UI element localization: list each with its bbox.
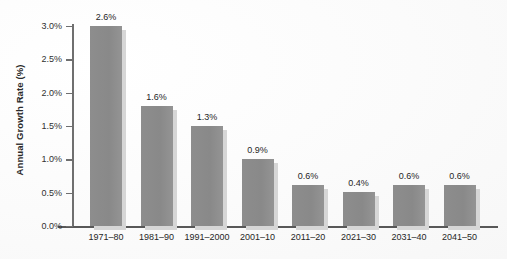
y-axis-tick-label: 2.5% — [18, 54, 62, 64]
bar-group[interactable]: 0.4% — [343, 192, 375, 226]
bar-value-label: 0.6% — [298, 171, 319, 181]
bar-rect[interactable] — [343, 192, 375, 226]
x-axis-tick-label: 1971–80 — [88, 232, 123, 242]
bar-rect[interactable] — [292, 185, 324, 226]
x-axis-tick-label: 1981–90 — [139, 232, 174, 242]
bar-value-label: 1.3% — [197, 112, 218, 122]
bar-rect[interactable] — [242, 159, 274, 226]
bar-group[interactable]: 1.3% — [191, 126, 223, 226]
bar-group[interactable]: 0.6% — [292, 185, 324, 226]
bar-group[interactable]: 0.6% — [444, 185, 476, 226]
y-axis-tick-label: 2.0% — [18, 88, 62, 98]
bar-rect[interactable] — [393, 185, 425, 226]
bar-rect[interactable] — [444, 185, 476, 226]
y-axis-tick-label: 0.0% — [18, 221, 62, 231]
bar-rect[interactable] — [191, 126, 223, 226]
y-axis-tick-label: 3.0% — [18, 21, 62, 31]
bar-value-label: 0.4% — [348, 178, 369, 188]
bar-group[interactable]: 0.9% — [242, 159, 274, 226]
bar-chart-figure: Annual Growth Rate (%) 0.0%0.5%1.0%1.5%2… — [0, 0, 507, 259]
y-axis-title: Annual Growth Rate (%) — [14, 50, 25, 190]
y-axis-tick-label: 1.0% — [18, 154, 62, 164]
bar-value-label: 1.6% — [146, 92, 167, 102]
bar-value-label: 2.6% — [96, 12, 117, 22]
bar-rect[interactable] — [90, 26, 122, 226]
x-axis-tick-label: 2021–30 — [341, 232, 376, 242]
bar-value-label: 0.6% — [399, 171, 420, 181]
bar-rect[interactable] — [141, 106, 173, 226]
x-axis-tick-label: 2041–50 — [442, 232, 477, 242]
bar-group[interactable]: 0.6% — [393, 185, 425, 226]
x-axis-tick-label: 2011–20 — [291, 232, 325, 242]
x-axis-tick-label: 1991–2000 — [184, 232, 229, 242]
bar-group[interactable]: 1.6% — [141, 106, 173, 226]
bar-value-label: 0.9% — [247, 145, 268, 155]
x-axis-tick-label: 2001–10 — [240, 232, 275, 242]
y-axis-tick-label: 1.5% — [18, 121, 62, 131]
plot-area: 2.6%1.6%1.3%0.9%0.6%0.4%0.6%0.6% — [72, 26, 490, 226]
bar-group[interactable]: 2.6% — [90, 26, 122, 226]
y-axis-tick-label: 0.5% — [18, 188, 62, 198]
x-axis-tick-label: 2031–40 — [391, 232, 426, 242]
bar-value-label: 0.6% — [449, 171, 470, 181]
y-axis-tick — [66, 226, 73, 227]
